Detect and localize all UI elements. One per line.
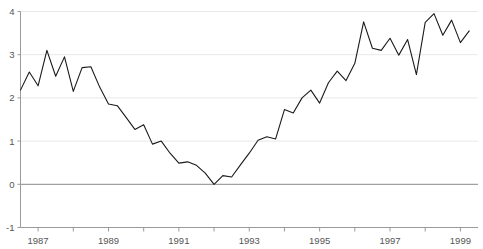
- y-tick-label-0: 0: [9, 179, 14, 190]
- x-tick-label-1995: 1995: [309, 235, 330, 246]
- x-tick-label-1999: 1999: [450, 235, 471, 246]
- y-tick-label-4: 4: [9, 6, 14, 17]
- chart-canvas: 43210-1 1987198919911993199519971999: [0, 0, 483, 249]
- y-tick-label-1: 1: [9, 136, 14, 147]
- x-tick-label-1991: 1991: [168, 235, 189, 246]
- y-tick-label-3: 3: [9, 49, 14, 60]
- line-chart: 43210-1 1987198919911993199519971999: [0, 0, 483, 249]
- chart-background: [0, 0, 483, 249]
- x-tick-label-1987: 1987: [28, 235, 49, 246]
- y-tick-label--1: -1: [6, 222, 14, 233]
- x-tick-label-1993: 1993: [239, 235, 260, 246]
- x-tick-label-1989: 1989: [98, 235, 119, 246]
- x-tick-label-1997: 1997: [379, 235, 400, 246]
- y-tick-label-2: 2: [9, 92, 14, 103]
